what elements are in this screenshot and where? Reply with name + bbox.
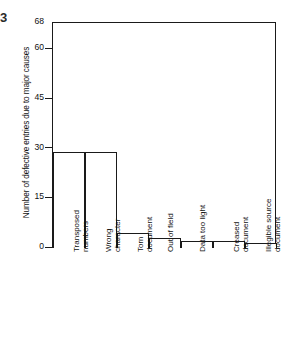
y-tick: 45 — [0, 93, 52, 103]
y-tick-label: 68 — [4, 17, 44, 25]
x-axis-label-line: numbers — [82, 210, 91, 252]
y-tick: 68 — [0, 17, 52, 27]
y-tick: 0 — [0, 242, 52, 252]
y-tick-label: 60 — [4, 43, 44, 51]
x-axis-label-line: document — [242, 217, 251, 252]
x-axis-label: Torndocument — [137, 217, 154, 252]
x-axis-label: Data too light — [199, 205, 208, 252]
y-tick-label: 15 — [4, 192, 44, 200]
x-axis-label-line: Out of field — [167, 213, 176, 252]
x-axis-label: Illegible sourcedocument — [265, 199, 282, 252]
x-axis-label-line: document — [274, 199, 283, 252]
pareto-bar-chart: 3 Number of defective entries due to maj… — [0, 0, 283, 344]
x-axis-label-line: document — [146, 217, 155, 252]
x-axis-label-line: Data too light — [199, 205, 208, 252]
x-axis-label: Transposednumbers — [73, 210, 90, 252]
bar — [181, 241, 213, 248]
x-axis-label-line: character — [114, 219, 123, 252]
x-axis-label: Wrongcharacter — [105, 219, 122, 252]
y-tick: 30 — [0, 143, 52, 153]
y-tick-label: 45 — [4, 93, 44, 101]
y-tick: 60 — [0, 43, 52, 53]
x-axis-label: Creaseddocument — [233, 217, 250, 252]
y-tick-label: 0 — [4, 242, 44, 250]
y-tick-label: 30 — [4, 143, 44, 151]
y-tick: 15 — [0, 192, 52, 202]
x-axis-label: Out of field — [167, 213, 176, 252]
